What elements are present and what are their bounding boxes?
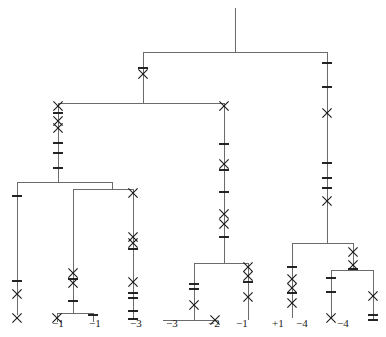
leaf-label: +1 (272, 318, 284, 329)
leaf-label: −1 (52, 318, 64, 329)
leaf-label: −1 (236, 318, 248, 329)
leaf-label: −3 (166, 318, 178, 329)
leaf-label: −2 (208, 318, 220, 329)
leaf-label: −1 (89, 318, 101, 329)
leaf-label: −4 (296, 318, 308, 329)
tree-figure-canvas: −1−1−3−3−2−1+1−4−4 (0, 0, 386, 337)
tree-event-marks (12, 63, 378, 325)
phylogenetic-tree (0, 0, 386, 337)
leaf-label: −4 (337, 318, 349, 329)
leaf-label: −3 (130, 318, 142, 329)
